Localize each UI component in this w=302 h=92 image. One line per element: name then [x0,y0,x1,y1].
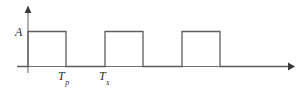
pulse-train-signal [17,32,288,67]
x-axis-arrowhead-icon [288,63,295,71]
amplitude-label-text: A [15,25,23,39]
y-axis-arrowhead-icon [25,6,32,14]
pulse-width-label: Tp [58,70,69,85]
amplitude-label: A [15,26,23,38]
period-label-subscript: s [106,78,109,87]
pulse-train-figure: A Tp Ts [0,0,302,92]
pulse-width-label-subscript: p [65,78,69,87]
waveform-plot [0,0,302,92]
pulse-width-label-base: T [58,69,65,83]
period-label-base: T [99,69,106,83]
period-label: Ts [99,70,109,85]
